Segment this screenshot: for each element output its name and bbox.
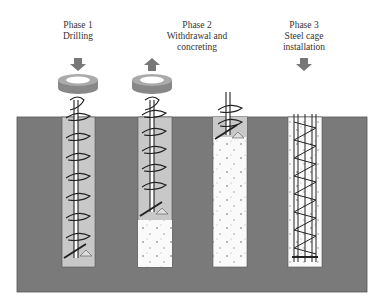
up-arrow-icon (144, 58, 160, 71)
rotation-icon (132, 74, 172, 94)
down-arrow-icon (296, 58, 312, 71)
down-arrow-icon (70, 58, 86, 71)
pile-diagram (0, 0, 381, 308)
rotation-icon (58, 74, 98, 94)
shaft-3-concreting (213, 117, 247, 267)
shaft-2-withdrawal (138, 117, 172, 267)
